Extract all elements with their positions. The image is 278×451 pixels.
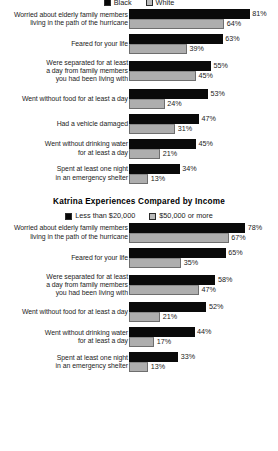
bar-row: 81% <box>129 9 278 19</box>
bar-group-label: Worried about elderly family memberslivi… <box>0 11 129 27</box>
chart-by-income-rows: Worried about elderly family memberslivi… <box>0 223 278 378</box>
bar-row: 21% <box>129 312 278 322</box>
bar-row: 39% <box>129 44 278 54</box>
bar-group-label-line: Were separated for at least <box>0 273 128 281</box>
bar-value-label: 65% <box>226 249 243 257</box>
bar-group-label-line: for at least a day <box>0 149 128 157</box>
bar-group-bars: 34%13% <box>129 164 278 184</box>
bar-value-label: 53% <box>208 90 225 98</box>
legend-swatch-black-icon <box>104 0 111 6</box>
bar-group-label-line: you had been living with <box>0 289 128 297</box>
bar-group-bars: 81%64% <box>129 9 278 29</box>
bar-value-label: 63% <box>223 35 240 43</box>
bar-group-bars: 33%13% <box>129 352 278 372</box>
bar-group-label-line: Went without food for at least a day <box>0 308 128 316</box>
bar-row: 47% <box>129 114 278 124</box>
bar-group-label-line: Went without drinking water <box>0 329 128 337</box>
bar-group-label-line: Worried about elderly family members <box>0 11 128 19</box>
bar-group-label: Went without food for at least a day <box>0 308 129 316</box>
bar-row: 55% <box>129 61 278 71</box>
bar-series-1 <box>129 61 211 71</box>
legend-item-white: White <box>146 0 175 7</box>
bar-group-label: Feared for your life <box>0 40 129 48</box>
bar-group: Spent at least one nightin an emergency … <box>0 164 278 184</box>
bar-row: 35% <box>129 258 278 268</box>
bar-row: 33% <box>129 352 278 362</box>
bar-group-bars: 65%35% <box>129 248 278 268</box>
bar-series-2 <box>129 71 196 81</box>
bar-value-label: 13% <box>148 363 165 371</box>
bar-row: 24% <box>129 99 278 109</box>
legend-label-white: White <box>156 0 175 7</box>
bar-group: Went without food for at least a day52%2… <box>0 302 278 322</box>
bar-group: Went without drinking waterfor at least … <box>0 327 278 347</box>
bar-group-label-line: in an emergency shelter <box>0 174 128 182</box>
bar-value-label: 24% <box>165 100 182 108</box>
bar-group: Worried about elderly family memberslivi… <box>0 9 278 29</box>
bar-value-label: 39% <box>187 45 204 53</box>
bar-value-label: 21% <box>160 313 177 321</box>
bar-row: 67% <box>129 233 278 243</box>
bar-series-2 <box>129 233 229 243</box>
bar-row: 64% <box>129 19 278 29</box>
bar-value-label: 81% <box>250 10 267 18</box>
bar-value-label: 55% <box>211 62 228 70</box>
bar-group-bars: 58%47% <box>129 275 278 295</box>
bar-value-label: 31% <box>175 125 192 133</box>
bar-row: 47% <box>129 285 278 295</box>
bar-row: 58% <box>129 275 278 285</box>
bar-value-label: 45% <box>196 140 213 148</box>
legend-label-black: Black <box>114 0 132 7</box>
bar-value-label: 67% <box>229 234 246 242</box>
bar-series-2 <box>129 124 175 134</box>
chart-by-race: Katrina Experiences Compared by Race Bla… <box>0 0 278 189</box>
bar-series-2 <box>129 19 224 29</box>
bar-row: 52% <box>129 302 278 312</box>
bar-group-label-line: Went without drinking water <box>0 140 128 148</box>
bar-value-label: 35% <box>181 259 198 267</box>
chart-by-race-rows: Worried about elderly family memberslivi… <box>0 9 278 189</box>
bar-group-label: Were separated for at leasta day from fa… <box>0 273 129 298</box>
bar-group-bars: 55%45% <box>129 61 278 81</box>
bar-row: 34% <box>129 164 278 174</box>
bar-row: 63% <box>129 34 278 44</box>
bar-value-label: 45% <box>196 72 213 80</box>
chart-by-race-legend: Black White <box>0 0 278 9</box>
bar-group-label: Feared for your life <box>0 254 129 262</box>
bar-group-label-line: Had a vehicle damaged <box>0 120 128 128</box>
bar-row: 44% <box>129 327 278 337</box>
bar-group-label: Went without drinking waterfor at least … <box>0 140 129 156</box>
bar-series-1 <box>129 9 250 19</box>
bar-group-label-line: in an emergency shelter <box>0 362 128 370</box>
bar-series-1 <box>129 114 199 124</box>
bar-group-label-line: Spent at least one night <box>0 354 128 362</box>
bar-group: Went without drinking waterfor at least … <box>0 139 278 159</box>
bar-group-bars: 63%39% <box>129 34 278 54</box>
bar-value-label: 13% <box>148 175 165 183</box>
bar-group-label-line: Feared for your life <box>0 254 128 262</box>
bar-group-bars: 44%17% <box>129 327 278 347</box>
bar-group-label: Went without drinking waterfor at least … <box>0 329 129 345</box>
bar-row: 78% <box>129 223 278 233</box>
bar-series-2 <box>129 174 148 184</box>
bar-series-1 <box>129 302 206 312</box>
bar-series-1 <box>129 34 223 44</box>
bar-group-label: Spent at least one nightin an emergency … <box>0 165 129 181</box>
bar-series-1 <box>129 139 196 149</box>
bar-group-label-line: you had been living with <box>0 75 128 83</box>
bar-value-label: 33% <box>178 353 195 361</box>
legend-label-50000-or-more: $50,000 or more <box>159 212 213 220</box>
bar-row: 31% <box>129 124 278 134</box>
bar-row: 65% <box>129 248 278 258</box>
bar-group-label-line: a day from family members <box>0 67 128 75</box>
bar-series-2 <box>129 149 160 159</box>
bar-value-label: 47% <box>199 286 216 294</box>
bar-group-label-line: Spent at least one night <box>0 165 128 173</box>
bar-group-label-line: Feared for your life <box>0 40 128 48</box>
bar-row: 21% <box>129 149 278 159</box>
bar-series-2 <box>129 99 165 109</box>
bar-series-1 <box>129 275 215 285</box>
bar-group-label: Went without food for at least a day <box>0 95 129 103</box>
bar-group-label-line: Went without food for at least a day <box>0 95 128 103</box>
legend-swatch-white-icon <box>146 0 153 6</box>
